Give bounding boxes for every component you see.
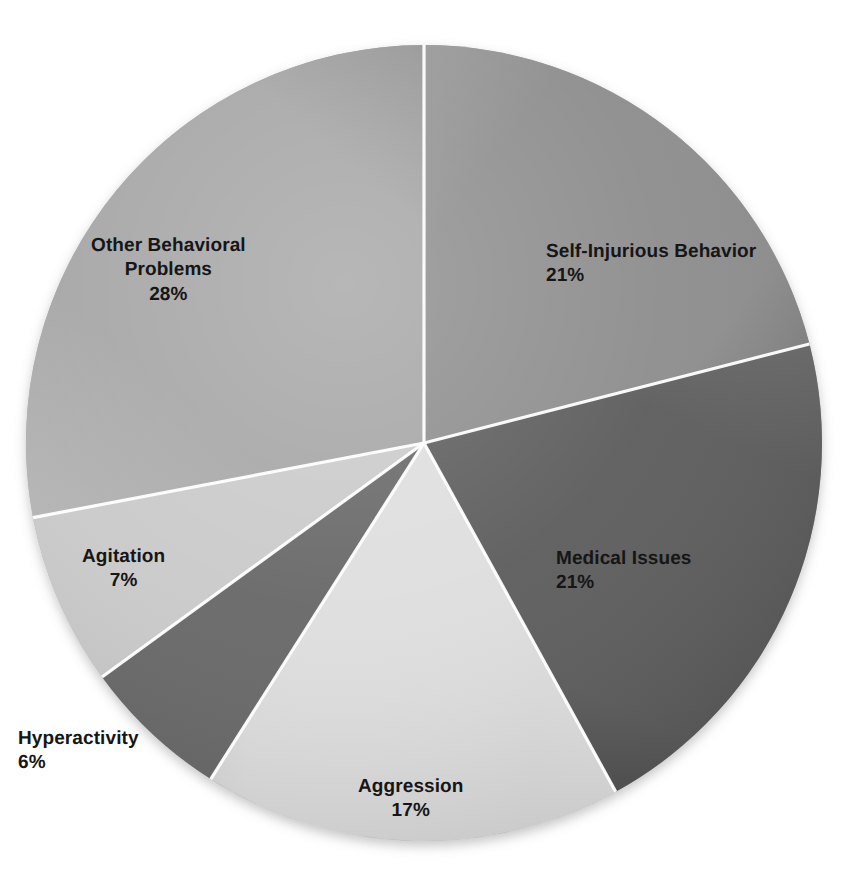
- slice-label-name: Aggression: [358, 775, 464, 799]
- slice-label-agitation: Agitation 7%: [82, 545, 165, 594]
- slice-label-name: Self-Injurious Behavior: [546, 240, 756, 264]
- pie-chart-figure: Self-Injurious Behavior 21% Medical Issu…: [0, 0, 853, 872]
- slice-label-self-injurious-behavior: Self-Injurious Behavior 21%: [546, 240, 756, 289]
- slice-label-percent: 6%: [18, 751, 139, 775]
- slice-label-percent: 7%: [82, 569, 165, 593]
- slice-label-medical-issues: Medical Issues 21%: [556, 547, 692, 596]
- slice-label-hyperactivity: Hyperactivity 6%: [18, 727, 139, 776]
- slice-label-percent: 17%: [358, 799, 464, 823]
- slice-label-name-line2: Problems: [91, 258, 246, 282]
- slice-label-other-behavioral-problems: Other Behavioral Problems 28%: [91, 234, 246, 307]
- slice-label-percent: 21%: [546, 264, 756, 288]
- slice-label-percent: 28%: [91, 283, 246, 307]
- slice-label-name: Medical Issues: [556, 547, 692, 571]
- slice-label-name: Hyperactivity: [18, 727, 139, 751]
- slice-label-name-line1: Other Behavioral: [91, 234, 246, 258]
- slice-label-name: Agitation: [82, 545, 165, 569]
- slice-label-percent: 21%: [556, 571, 692, 595]
- slice-label-aggression: Aggression 17%: [358, 775, 464, 824]
